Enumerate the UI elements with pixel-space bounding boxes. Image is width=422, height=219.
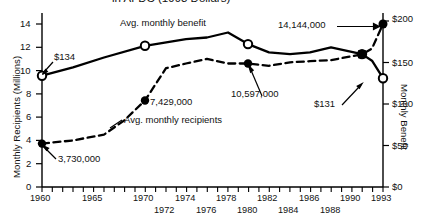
y2-tick-0: $0	[392, 182, 403, 192]
left-axis-ticks	[36, 24, 42, 187]
marker-benefit-1993	[379, 74, 387, 82]
annotation-benefit-1960: $134	[54, 52, 75, 62]
marker-recipients-1980	[244, 59, 252, 67]
annotation-recipients-1993: 14,144,000	[278, 20, 326, 30]
series-avg-monthly-recipients	[42, 24, 383, 144]
arrowhead-131	[357, 84, 362, 89]
annotation-benefit-1993: $131	[314, 99, 335, 109]
series-avg-monthly-benefit	[42, 33, 383, 79]
right-axis-ticks	[383, 21, 389, 187]
chart-plot-area	[0, 0, 422, 219]
y-axis-title: Monthly Recipients (Millions)	[11, 56, 22, 178]
y-tick-4: 4	[26, 135, 31, 145]
chart-figure: in AFDC (1993 Dollars)	[0, 0, 422, 219]
x-tick-1982: 1982	[257, 194, 277, 203]
series-label-recipients: Avg. monthly recipients	[124, 115, 222, 125]
x-tick-1974: 1974	[175, 194, 195, 203]
annotation-arrows	[42, 24, 379, 160]
arrowhead-3730000	[43, 146, 49, 151]
x-tick-1990: 1990	[340, 194, 360, 203]
y-tick-2: 2	[26, 159, 31, 169]
x-tick-1965: 1965	[82, 194, 102, 203]
y2-tick-200: $200	[392, 14, 413, 24]
y-tick-6: 6	[26, 112, 31, 122]
y-tick-8: 8	[26, 89, 31, 99]
y-tick-12: 12	[20, 42, 31, 52]
x-tick-1976: 1976	[196, 206, 216, 215]
y-tick-0: 0	[26, 182, 31, 192]
marker-recipients-1990	[358, 50, 366, 58]
x-tick-1993: 1993	[371, 194, 391, 203]
annotation-recipients-1960: 3,730,000	[58, 154, 100, 164]
marker-recipients-1970	[141, 96, 149, 104]
marker-recipients-1993	[379, 20, 388, 29]
data-point-markers	[38, 20, 388, 148]
arrow-131	[342, 87, 359, 105]
y2-axis-title: Monthly Benefit	[399, 84, 410, 150]
marker-benefit-1970	[141, 42, 149, 50]
marker-benefit-1980	[244, 40, 252, 48]
y2-tick-150: $150	[392, 58, 413, 68]
annotation-recipients-1970: 7,429,000	[150, 97, 192, 107]
x-tick-1978: 1978	[216, 194, 236, 203]
x-tick-1960: 1960	[30, 194, 50, 203]
x-tick-1988: 1988	[320, 206, 340, 215]
x-tick-1970: 1970	[133, 194, 153, 203]
x-tick-1980: 1980	[237, 206, 257, 215]
x-tick-1984: 1984	[278, 206, 298, 215]
x-axis-ticks	[42, 187, 383, 192]
annotation-recipients-1980: 10,597,000	[231, 89, 279, 99]
series-label-benefit: Avg. monthly benefit	[120, 18, 206, 28]
x-tick-1972: 1972	[154, 206, 174, 215]
y-tick-14: 14	[20, 19, 31, 29]
x-tick-1986: 1986	[299, 194, 319, 203]
